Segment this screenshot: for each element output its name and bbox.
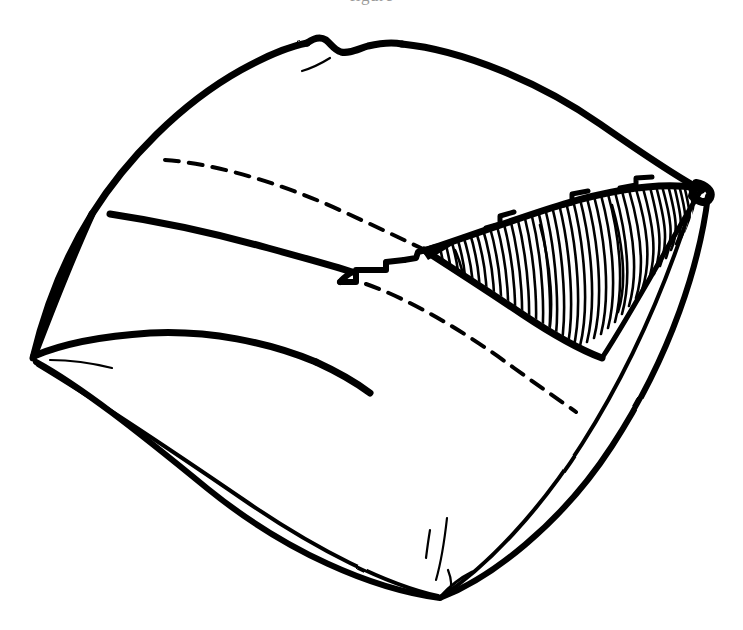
pillow-polyhedron-drawing bbox=[0, 0, 743, 630]
figure-canvas: figure bbox=[0, 0, 743, 630]
figure-background bbox=[0, 0, 743, 630]
